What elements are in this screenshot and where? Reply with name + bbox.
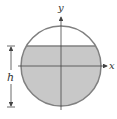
circle-segment-diagram: x y h	[0, 0, 117, 119]
y-axis-label: y	[57, 2, 64, 13]
x-axis-label: x	[109, 60, 115, 71]
dimension-label: h	[7, 71, 14, 84]
